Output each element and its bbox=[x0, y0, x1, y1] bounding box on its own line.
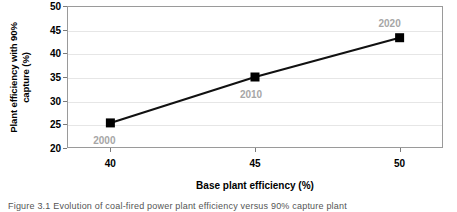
y-tick-label: 45 bbox=[37, 24, 61, 35]
y-tick-label: 30 bbox=[37, 95, 61, 106]
y-axis-title-line1: Plant efficiency with 90% bbox=[8, 22, 19, 132]
x-tick-label: 45 bbox=[235, 158, 275, 169]
series-markers bbox=[106, 33, 404, 127]
x-tick-mark bbox=[400, 148, 401, 152]
data-point-marker bbox=[395, 33, 404, 42]
data-point-label: 2020 bbox=[364, 18, 416, 29]
y-tick-label: 25 bbox=[37, 119, 61, 130]
y-tick-mark bbox=[63, 148, 67, 149]
figure-container: Plant efficiency with 90% capture (%) 20… bbox=[0, 0, 457, 212]
x-axis-title: Base plant efficiency (%) bbox=[67, 180, 443, 191]
y-tick-label: 20 bbox=[37, 143, 61, 154]
x-tick-mark bbox=[110, 148, 111, 152]
x-tick-label: 40 bbox=[90, 158, 130, 169]
data-point-marker bbox=[106, 118, 115, 127]
data-point-marker bbox=[251, 73, 260, 82]
y-axis-title-line2: capture (%) bbox=[20, 52, 31, 103]
data-point-label: 2000 bbox=[78, 135, 130, 146]
x-tick-mark bbox=[255, 148, 256, 152]
x-tick-label: 50 bbox=[380, 158, 420, 169]
figure-caption: Figure 3.1 Evolution of coal-fired power… bbox=[8, 201, 449, 211]
y-tick-label: 50 bbox=[37, 1, 61, 12]
y-tick-label: 35 bbox=[37, 72, 61, 83]
data-point-label: 2010 bbox=[225, 89, 277, 100]
y-tick-label: 40 bbox=[37, 48, 61, 59]
